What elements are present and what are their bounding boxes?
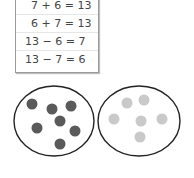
left-set-outline <box>14 86 94 156</box>
light-counters <box>109 95 168 143</box>
left-set <box>14 86 94 156</box>
light-counter <box>139 95 150 106</box>
right-set <box>98 86 180 156</box>
dark-counter <box>70 126 81 137</box>
counter-sets-illustration <box>0 0 194 178</box>
light-counter <box>136 116 147 127</box>
dark-counter <box>66 101 77 112</box>
dark-counter <box>27 99 38 110</box>
light-counter <box>109 114 120 125</box>
light-counter <box>135 132 146 143</box>
light-counter <box>157 114 168 125</box>
dark-counter <box>55 116 66 127</box>
dark-counter <box>32 123 43 134</box>
dark-counter <box>55 139 66 150</box>
dark-counters <box>27 99 81 150</box>
dark-counter <box>47 104 58 115</box>
light-counter <box>122 98 133 109</box>
